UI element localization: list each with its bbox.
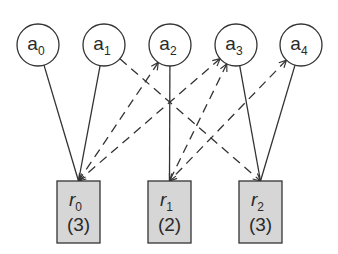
resource-r0: r0(3) (57, 181, 100, 243)
edge-a0-r0 (44, 65, 79, 181)
resource-capacity: (3) (249, 214, 272, 235)
allocation-diagram: r0(3)r1(2)r2(3) a0a1a2a3a4 (0, 0, 338, 254)
edge-a4-r2 (261, 65, 296, 181)
agent-a3: a3 (215, 24, 257, 66)
agent-a4: a4 (280, 24, 322, 66)
resource-r2: r2(3) (239, 181, 282, 243)
resource-capacity: (2) (158, 214, 181, 235)
agent-a2: a2 (149, 24, 191, 66)
edge-a1-r0 (79, 66, 101, 181)
edge-a3-r1 (170, 64, 227, 181)
resources-layer: r0(3)r1(2)r2(3) (57, 181, 282, 243)
edge-a3-r2 (240, 66, 261, 181)
agents-layer: a0a1a2a3a4 (17, 24, 322, 66)
edges-layer (44, 59, 295, 181)
agent-a0: a0 (17, 24, 59, 66)
resource-capacity: (3) (67, 214, 90, 235)
resource-r1: r1(2) (148, 181, 191, 243)
edge-a1-r2 (120, 59, 261, 181)
agent-a1: a1 (83, 24, 125, 66)
edge-a4-r1 (170, 60, 287, 181)
